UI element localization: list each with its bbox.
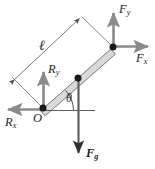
origin-label: O <box>33 112 42 125</box>
reaction-y-base: R <box>48 62 56 76</box>
force-gravity-label: Fg <box>86 147 98 162</box>
extension-line-lower <box>13 78 44 109</box>
force-y-subscript: y <box>127 8 131 17</box>
force-y-label: Fy <box>119 3 130 18</box>
reaction-y-subscript: y <box>56 68 60 77</box>
tip-node-marker <box>110 44 117 51</box>
diagram-canvas <box>0 0 155 169</box>
extension-line-upper <box>82 17 114 48</box>
physics-free-body-diagram: ℓ O θ Rx Ry Fx Fy Fg <box>0 0 155 169</box>
reaction-x-label: Rx <box>5 116 16 131</box>
center-of-mass-node-marker <box>75 75 82 82</box>
rod-length-label: ℓ <box>39 39 45 53</box>
angle-label: θ <box>66 92 72 104</box>
reaction-y-label: Ry <box>48 63 59 78</box>
reaction-x-base: R <box>5 115 13 129</box>
force-x-label: Fx <box>136 52 147 67</box>
force-gravity-subscript: g <box>94 152 98 161</box>
force-x-subscript: x <box>144 57 148 66</box>
dimension-line-length <box>15 19 80 80</box>
force-y-base: F <box>119 2 127 16</box>
reaction-x-subscript: x <box>13 121 17 130</box>
force-x-base: F <box>136 51 144 65</box>
